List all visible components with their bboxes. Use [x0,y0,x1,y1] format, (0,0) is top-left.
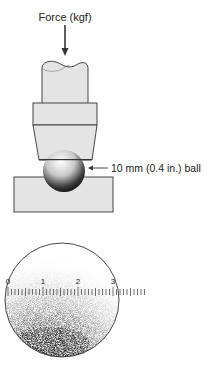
ball-pointer-arrow-icon [88,166,108,171]
steel-ball [43,150,85,192]
indentation-magnified-view [0,240,130,365]
indenter-collar [33,103,97,125]
force-label: Force (kgf) [38,11,91,23]
scale-label-3: 3 [111,277,116,286]
scale-label-2: 2 [76,277,81,286]
indenter-shaft [42,61,88,104]
brinell-test-diagram: Force (kgf) 10 mm (0.4 in.) ball [0,0,217,367]
force-arrow-icon [62,25,69,56]
scale-label-0: 0 [6,277,11,286]
ball-label: 10 mm (0.4 in.) ball [111,162,201,174]
scale-label-1: 1 [41,277,46,286]
